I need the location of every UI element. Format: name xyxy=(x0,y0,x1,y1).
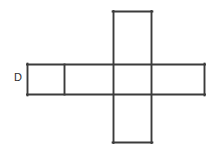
label-d: D xyxy=(11,70,25,84)
figure-canvas: D xyxy=(0,0,213,151)
net-line-group xyxy=(27,11,205,143)
cube-net-drawing xyxy=(0,0,213,151)
